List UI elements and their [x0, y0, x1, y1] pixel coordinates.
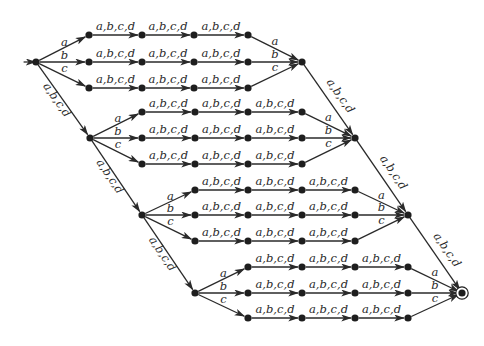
labels-layer: aa,b,c,da,b,c,da,b,c,daba,b,c,da,b,c,da,…	[40, 19, 464, 316]
edge-label-c: c	[220, 292, 227, 306]
state	[298, 211, 305, 218]
edge-label-any: a,b,c,d	[309, 302, 348, 316]
state	[244, 160, 251, 167]
state	[298, 160, 305, 167]
state	[244, 84, 251, 91]
edge-label-any: a,b,c,d	[256, 122, 295, 136]
edge-label-any: a,b,c,d	[362, 302, 401, 316]
state	[244, 263, 251, 270]
merge-state	[298, 58, 305, 65]
state	[351, 263, 358, 270]
edge-label-any: a,b,c,d	[309, 225, 348, 239]
edge-label-c: c	[432, 291, 439, 305]
merge-state	[404, 211, 411, 218]
edge-label-a: a	[115, 111, 122, 125]
accepting-state	[458, 289, 465, 296]
state	[244, 134, 251, 141]
edge-label-c: c	[325, 136, 332, 150]
state	[404, 314, 411, 321]
edge-label-any: a,b,c,d	[149, 96, 188, 110]
branch-state	[86, 134, 93, 141]
state	[298, 314, 305, 321]
edge-label-any: a,b,c,d	[149, 122, 188, 136]
edge-label-b: b	[167, 201, 174, 215]
state	[404, 263, 411, 270]
edge-label-any: a,b,c,d	[202, 122, 241, 136]
edge-label-any: a,b,c,d	[202, 46, 241, 60]
edge-label-any: a,b,c,d	[149, 148, 188, 162]
state	[298, 237, 305, 244]
state	[85, 84, 92, 91]
edge-label-c: c	[272, 60, 279, 74]
state	[351, 186, 358, 193]
state	[191, 160, 198, 167]
edge-label-any: a,b,c,d	[309, 277, 348, 291]
edge-label-any: a,b,c,d	[202, 174, 241, 188]
edge-label-any: a,b,c,d	[309, 251, 348, 265]
state	[351, 314, 358, 321]
edge-label-b: b	[271, 47, 278, 61]
edge-label-b: b	[325, 123, 332, 137]
edge-label-a: a	[432, 265, 439, 279]
state	[138, 108, 145, 115]
edge-label-any: a,b,c,d	[256, 251, 295, 265]
state	[298, 289, 305, 296]
state	[85, 58, 92, 65]
state	[138, 58, 145, 65]
edge-label-any: a,b,c,d	[309, 174, 348, 188]
state	[138, 84, 145, 91]
edge-label-any: a,b,c,d	[149, 46, 188, 60]
state	[138, 31, 145, 38]
edge-label-any: a,b,c,d	[256, 199, 295, 213]
state	[244, 58, 251, 65]
state	[244, 289, 251, 296]
state	[190, 84, 197, 91]
edge-label-any: a,b,c,d	[202, 72, 241, 86]
automaton-diagram: aa,b,c,da,b,c,da,b,c,daba,b,c,da,b,c,da,…	[0, 0, 484, 346]
edge-label-any: a,b,c,d	[149, 19, 188, 33]
edge-label-any: a,b,c,d	[96, 46, 135, 60]
state	[298, 186, 305, 193]
merge-state	[351, 134, 358, 141]
edge-label-any: a,b,c,d	[96, 72, 135, 86]
edge-label-any: a,b,c,d	[256, 148, 295, 162]
state	[244, 108, 251, 115]
edge-label-any: a,b,c,d	[202, 19, 241, 33]
state	[404, 289, 411, 296]
state	[191, 134, 198, 141]
state	[138, 160, 145, 167]
state	[244, 31, 251, 38]
edge-label-any: a,b,c,d	[256, 96, 295, 110]
state	[244, 237, 251, 244]
state	[191, 186, 198, 193]
edge-label-a: a	[272, 34, 279, 48]
start-state	[32, 58, 39, 65]
diagonal-right-label: a,b,c,d	[377, 152, 411, 192]
diagonal-left-label: a,b,c,d	[40, 80, 74, 120]
edge-label-any: a,b,c,d	[256, 225, 295, 239]
edge-label-any: a,b,c,d	[202, 96, 241, 110]
state	[190, 58, 197, 65]
state	[191, 211, 198, 218]
edge-label-any: a,b,c,d	[96, 19, 135, 33]
state	[191, 108, 198, 115]
state	[351, 211, 358, 218]
branch-state	[191, 289, 198, 296]
diagonal-left-label: a,b,c,d	[94, 156, 127, 196]
state	[298, 108, 305, 115]
state	[85, 31, 92, 38]
edge-label-a: a	[220, 266, 227, 280]
edge-label-c: c	[167, 214, 174, 228]
edge-label-any: a,b,c,d	[202, 148, 241, 162]
edge-label-any: a,b,c,d	[256, 302, 295, 316]
edge-label-b: b	[378, 200, 385, 214]
state	[351, 237, 358, 244]
state	[138, 134, 145, 141]
diagonal-left-label: a,b,c,d	[146, 234, 179, 274]
edge-label-a: a	[325, 110, 332, 124]
edge-label-any: a,b,c,d	[149, 72, 188, 86]
edge-label-any: a,b,c,d	[202, 225, 241, 239]
state	[244, 314, 251, 321]
edge-label-any: a,b,c,d	[309, 199, 348, 213]
edge-label-b: b	[114, 124, 121, 138]
